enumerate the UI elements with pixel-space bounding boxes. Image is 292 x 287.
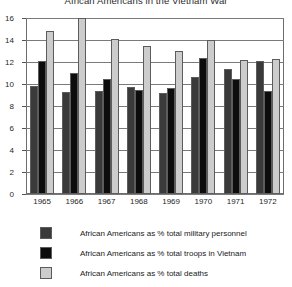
plot-area: 0246810121416	[26, 18, 284, 194]
bar	[46, 31, 54, 194]
chart-title: African Americans in the Vietnam War	[0, 0, 292, 6]
bar	[111, 39, 119, 194]
bar	[264, 91, 272, 194]
bars-layer	[26, 18, 284, 194]
x-axis-tick-label: 1965	[26, 197, 58, 206]
bar	[207, 40, 215, 194]
year-group-1966	[58, 18, 90, 194]
year-group-1972	[252, 18, 284, 194]
bar	[232, 79, 240, 195]
legend-swatch-icon	[40, 267, 52, 279]
legend-item-label: African Americans as % total deaths	[80, 269, 208, 278]
y-axis-tick-label: 2	[0, 168, 14, 177]
legend-swatch-icon	[40, 227, 52, 239]
year-group-1967	[91, 18, 123, 194]
chart-figure: African Americans in the Vietnam War 024…	[0, 0, 292, 287]
y-axis-tick-label: 8	[0, 102, 14, 111]
bar	[70, 73, 78, 194]
bar	[127, 87, 135, 194]
year-group-1971	[220, 18, 252, 194]
y-axis-tick-label: 14	[0, 36, 14, 45]
bar	[175, 51, 183, 194]
bar	[240, 60, 248, 194]
x-axis-labels: 19651966196719681969197019711972	[26, 197, 284, 206]
x-axis-tick-label: 1968	[123, 197, 155, 206]
bar	[256, 61, 264, 194]
year-group-1968	[123, 18, 155, 194]
bar	[62, 92, 70, 194]
y-axis-tick-label: 4	[0, 146, 14, 155]
year-group-1965	[26, 18, 58, 194]
y-axis-tick-label: 16	[0, 14, 14, 23]
bar	[159, 93, 167, 194]
legend-item: African Americans as % total troops in V…	[40, 243, 290, 263]
bar	[191, 77, 199, 194]
year-group-1969	[155, 18, 187, 194]
bar	[30, 86, 38, 194]
legend-item-label: African Americans as % total troops in V…	[80, 249, 246, 258]
bar	[95, 91, 103, 194]
bar	[38, 61, 46, 194]
y-axis-tick-label: 12	[0, 58, 14, 67]
legend-item-label: African Americans as % total military pe…	[80, 229, 247, 238]
bar	[224, 69, 232, 194]
chart-legend: African Americans as % total military pe…	[40, 223, 290, 283]
bar	[103, 79, 111, 195]
y-axis-tick-mark	[22, 194, 26, 195]
bar	[199, 58, 207, 194]
x-axis-tick-label: 1967	[91, 197, 123, 206]
y-axis-tick-label: 6	[0, 124, 14, 133]
x-axis-tick-label: 1970	[187, 197, 219, 206]
legend-item: African Americans as % total deaths	[40, 263, 290, 283]
y-axis-tick-label: 10	[0, 80, 14, 89]
year-group-1970	[187, 18, 219, 194]
x-axis-tick-label: 1972	[252, 197, 284, 206]
x-axis-tick-label: 1966	[58, 197, 90, 206]
x-axis-tick-label: 1969	[155, 197, 187, 206]
gridline	[26, 194, 284, 195]
legend-swatch-icon	[40, 247, 52, 259]
bar	[167, 88, 175, 194]
legend-item: African Americans as % total military pe…	[40, 223, 290, 243]
bar	[78, 18, 86, 194]
bar	[143, 46, 151, 195]
bar	[135, 90, 143, 195]
y-axis-tick-label: 0	[0, 190, 14, 199]
x-axis-tick-label: 1971	[220, 197, 252, 206]
bar	[272, 59, 280, 194]
